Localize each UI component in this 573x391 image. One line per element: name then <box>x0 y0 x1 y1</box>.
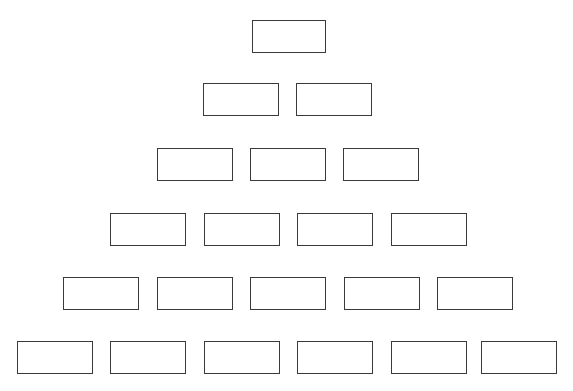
pyramid-box-label <box>158 278 232 309</box>
pyramid-box-label <box>251 278 325 309</box>
pyramid-box-r2-c2[interactable] <box>296 83 372 116</box>
pyramid-box-label <box>482 342 556 373</box>
pyramid-box-label <box>205 214 279 245</box>
pyramid-box-label <box>438 278 512 309</box>
pyramid-box-r4-c2[interactable] <box>204 213 280 246</box>
pyramid-box-label <box>298 214 372 245</box>
pyramid-box-r3-c3[interactable] <box>343 148 419 181</box>
pyramid-box-label <box>64 278 138 309</box>
pyramid-box-label <box>111 342 185 373</box>
pyramid-box-label <box>392 342 466 373</box>
pyramid-box-r5-c4[interactable] <box>344 277 420 310</box>
pyramid-box-r4-c3[interactable] <box>297 213 373 246</box>
pyramid-box-r4-c1[interactable] <box>110 213 186 246</box>
pyramid-box-label <box>158 149 232 180</box>
pyramid-box-label <box>18 342 92 373</box>
pyramid-box-r6-c1[interactable] <box>17 341 93 374</box>
pyramid-box-r6-c5[interactable] <box>391 341 467 374</box>
pyramid-box-r5-c2[interactable] <box>157 277 233 310</box>
pyramid-box-r4-c4[interactable] <box>391 213 467 246</box>
pyramid-box-label <box>392 214 466 245</box>
pyramid-box-label <box>253 21 325 52</box>
pyramid-box-label <box>297 84 371 115</box>
pyramid-box-label <box>251 149 325 180</box>
pyramid-box-r6-c3[interactable] <box>204 341 280 374</box>
pyramid-box-r5-c5[interactable] <box>437 277 513 310</box>
pyramid-box-r6-c4[interactable] <box>297 341 373 374</box>
diagram-canvas <box>0 0 573 391</box>
pyramid-box-r2-c1[interactable] <box>203 83 279 116</box>
pyramid-box-r3-c1[interactable] <box>157 148 233 181</box>
pyramid-box-label <box>345 278 419 309</box>
pyramid-box-r5-c1[interactable] <box>63 277 139 310</box>
pyramid-box-r5-c3[interactable] <box>250 277 326 310</box>
pyramid-box-label <box>204 84 278 115</box>
pyramid-box-label <box>298 342 372 373</box>
pyramid-box-label <box>205 342 279 373</box>
pyramid-box-label <box>111 214 185 245</box>
pyramid-box-r3-c2[interactable] <box>250 148 326 181</box>
pyramid-box-r6-c2[interactable] <box>110 341 186 374</box>
pyramid-box-r6-c6[interactable] <box>481 341 557 374</box>
pyramid-box-label <box>344 149 418 180</box>
pyramid-box-r1-c1[interactable] <box>252 20 326 53</box>
